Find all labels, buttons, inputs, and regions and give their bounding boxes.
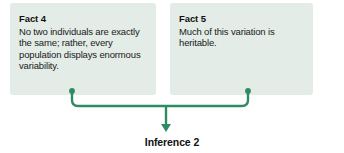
connector-dot-left [69, 88, 75, 94]
arrowhead-icon [161, 124, 171, 132]
fact-box-title: Fact 4 [19, 13, 147, 25]
connector-dot-right [245, 88, 251, 94]
fact-box-body: No two individuals are exactly the same;… [19, 26, 147, 72]
fact-box-body: Much of this variation is heritable. [179, 26, 304, 49]
fact-box-title: Fact 5 [179, 13, 304, 25]
flow-diagram: Fact 4 No two individuals are exactly th… [0, 0, 344, 153]
inference-label: Inference 2 [0, 136, 344, 148]
connector-bracket-path [72, 91, 248, 106]
connector-arrow-group [0, 80, 344, 140]
